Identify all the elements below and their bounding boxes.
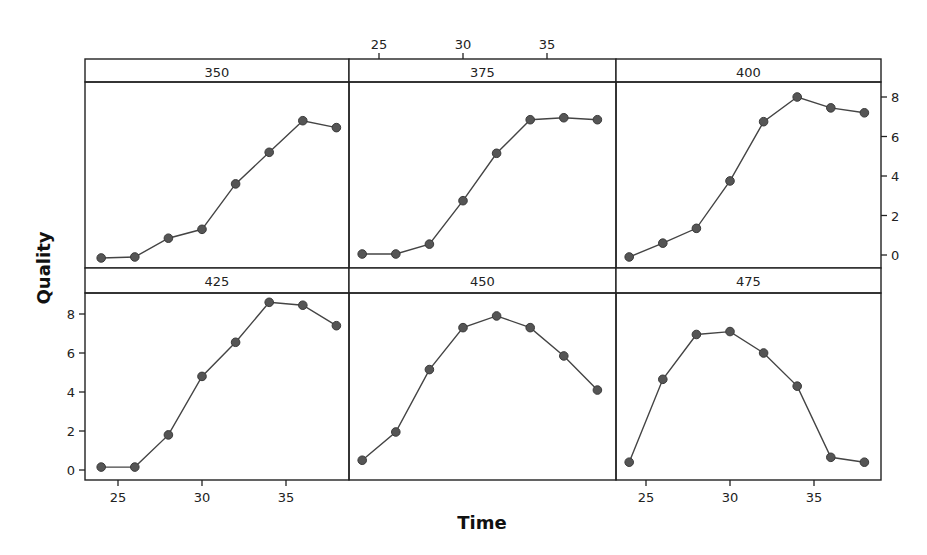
data-point [231,180,240,189]
data-point [793,382,802,391]
data-point [759,349,768,358]
data-point [131,253,140,262]
data-point [164,431,173,440]
panel-grid: 350375400425450475 [85,59,881,480]
x-tick-label: 30 [455,37,472,52]
data-point [726,177,735,186]
data-point [425,240,434,249]
data-point [299,301,308,310]
y-tick-label: 0 [67,463,75,478]
data-point [265,298,274,307]
y-tick-label: 4 [891,169,899,184]
data-point [299,116,308,125]
data-point [827,453,836,462]
data-point [392,428,401,437]
panel-plot-area [85,293,349,480]
series-line [629,332,864,463]
panel-plot-area [616,293,881,480]
data-point [392,250,401,259]
x-axis-title: Time [457,512,506,533]
data-point [164,234,173,243]
data-point [459,196,468,205]
series-line [101,302,336,467]
data-point [726,327,735,336]
data-point [332,123,341,132]
y-tick-label: 6 [891,130,899,145]
panel-strip-label: 350 [205,65,230,80]
data-point [97,463,106,472]
data-point [692,330,701,339]
data-point [625,458,634,467]
data-point [492,312,501,321]
data-point [332,321,341,330]
trellis-line-chart: 350375400425450475 253035253035253035024… [0,0,927,555]
x-tick-label: 35 [806,490,823,505]
panel-350: 350 [85,59,349,268]
panel-450: 450 [349,268,616,480]
data-point [425,365,434,374]
panel-plot-area [349,82,616,268]
panel-strip-label: 425 [205,274,230,289]
data-point [625,253,634,262]
x-tick-label: 35 [278,490,295,505]
y-tick-label: 8 [67,307,75,322]
data-point [492,149,501,158]
y-tick-label: 2 [67,424,75,439]
data-point [560,352,569,361]
y-tick-label: 6 [67,346,75,361]
x-tick-label: 30 [194,490,211,505]
x-tick-label: 35 [539,37,556,52]
panel-strip-label: 400 [736,65,761,80]
y-tick-label: 4 [67,385,75,400]
series-line [101,121,336,258]
data-point [358,456,367,465]
data-point [860,458,869,467]
panel-strip-label: 450 [470,274,495,289]
data-point [659,239,668,248]
y-axis-title: Quality [33,231,54,304]
data-point [827,104,836,113]
data-point [459,323,468,332]
panel-375: 375 [349,59,616,268]
data-point [198,225,207,234]
data-point [593,115,602,124]
data-point [692,224,701,233]
panel-strip-label: 475 [736,274,761,289]
y-tick-label: 2 [891,209,899,224]
data-point [860,109,869,118]
panel-plot-area [85,82,349,268]
data-point [265,148,274,157]
x-tick-label: 25 [638,490,655,505]
data-point [593,386,602,395]
data-point [526,323,535,332]
series-line [362,118,597,254]
data-point [97,254,106,263]
data-point [526,115,535,124]
data-point [560,113,569,122]
panel-400: 400 [616,59,881,268]
series-line [629,97,864,257]
panel-strip-label: 375 [470,65,495,80]
data-point [131,463,140,472]
y-tick-label: 8 [891,90,899,105]
data-point [198,372,207,381]
data-point [793,93,802,102]
data-point [231,338,240,347]
x-tick-label: 30 [722,490,739,505]
y-tick-label: 0 [891,248,899,263]
panel-475: 475 [616,268,881,480]
series-line [362,316,597,460]
panel-425: 425 [85,268,349,480]
data-point [759,117,768,126]
data-point [358,250,367,259]
data-point [659,375,668,384]
x-tick-label: 25 [371,37,388,52]
x-tick-label: 25 [110,490,127,505]
